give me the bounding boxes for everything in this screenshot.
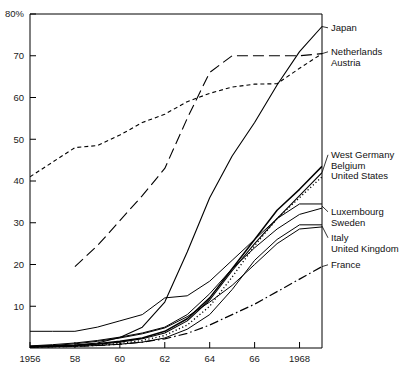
series-line-west-germany <box>30 166 322 346</box>
series-line-luxembourg <box>30 204 322 331</box>
series-line-japan <box>30 27 322 347</box>
label-leader-line <box>322 226 328 238</box>
plot-frame <box>30 14 322 348</box>
x-axis-tick-label: 58 <box>70 353 81 364</box>
label-leader-line <box>322 52 328 54</box>
series-label-netherlands: Netherlands <box>331 46 382 57</box>
y-axis-tick-label: 20 <box>13 259 24 270</box>
series-line-france <box>30 267 322 348</box>
series-label-luxembourg: Luxembourg <box>331 206 384 217</box>
series-line-united-kingdom <box>30 227 322 346</box>
line-chart: 1020304050607080%195658606264661968Japan… <box>0 0 404 380</box>
y-axis-tick-label: 60 <box>13 92 24 103</box>
series-group <box>30 27 322 348</box>
series-label-france: France <box>331 259 361 270</box>
x-axis-tick-label: 64 <box>204 353 215 364</box>
label-leader-line <box>322 155 328 173</box>
y-axis-tick-label: 80% <box>5 8 25 19</box>
y-axis-tick-label: 10 <box>13 301 24 312</box>
x-axis-tick-label: 66 <box>249 353 260 364</box>
series-line-austria <box>30 54 322 177</box>
label-leader-line <box>322 206 328 212</box>
x-axis-tick-label: 1956 <box>19 353 40 364</box>
x-axis-tick-label: 60 <box>115 353 126 364</box>
x-axis-tick-label: 1968 <box>289 353 310 364</box>
label-leader-line <box>322 265 328 267</box>
y-axis-tick-label: 40 <box>13 175 24 186</box>
label-leader-line <box>322 27 328 28</box>
y-axis-tick-label: 70 <box>13 50 24 61</box>
series-label-sweden: Sweden <box>331 217 365 228</box>
y-axis-tick-label: 30 <box>13 217 24 228</box>
series-label-united-kingdom: United Kingdom <box>331 243 399 254</box>
series-label-italy: Italy <box>331 232 349 243</box>
series-label-west-germany: West Germany <box>331 149 394 160</box>
x-axis-tick-label: 62 <box>159 353 170 364</box>
series-label-belgium: Belgium <box>331 160 365 171</box>
y-axis: 1020304050607080% <box>5 8 36 311</box>
chart-container: 1020304050607080%195658606264661968Japan… <box>0 0 404 380</box>
y-axis-tick-label: 50 <box>13 134 24 145</box>
series-label-austria: Austria <box>331 57 361 68</box>
series-line-united-states <box>30 177 322 347</box>
series-label-united-states: United States <box>331 170 388 181</box>
series-label-japan: Japan <box>331 22 357 33</box>
series-labels: JapanNetherlandsAustriaWest GermanyBelgi… <box>322 22 399 270</box>
